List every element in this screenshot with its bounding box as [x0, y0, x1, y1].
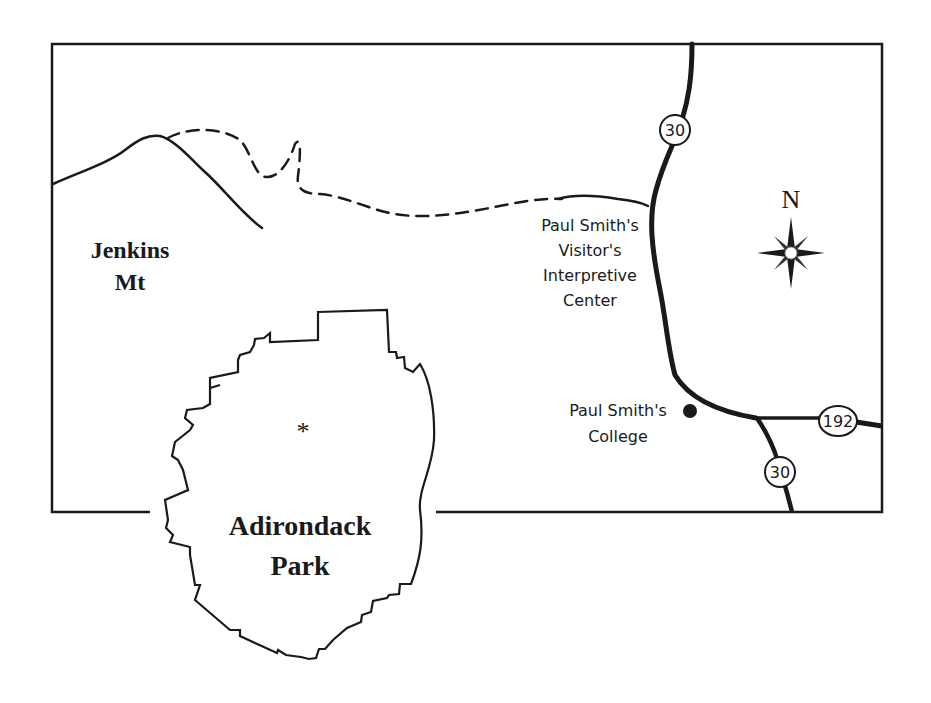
svg-text:N: N: [782, 185, 801, 214]
visitor-center-label: Paul Smith's Visitor's Interpretive Cent…: [541, 216, 639, 310]
svg-text:Interpretive: Interpretive: [543, 266, 637, 285]
jenkins-trail-solid: [53, 136, 262, 228]
svg-text:Park: Park: [270, 550, 330, 581]
route-30-road: [652, 44, 756, 418]
trail-to-route30: [558, 196, 648, 206]
svg-text:30: 30: [665, 121, 685, 140]
trail-dashed: [168, 130, 562, 216]
svg-text:Adirondack: Adirondack: [229, 510, 372, 541]
svg-text:Visitor's: Visitor's: [558, 241, 621, 260]
svg-text:Center: Center: [563, 291, 617, 310]
route-192-road-east: [856, 422, 882, 426]
svg-text:30: 30: [770, 463, 790, 482]
compass-rose-icon: N: [757, 185, 825, 289]
route-30-south-shield: 30: [765, 457, 795, 487]
svg-text:College: College: [588, 427, 648, 446]
map-canvas: 30 192 30 Jenkins Mt Paul Smith's Visito…: [0, 0, 931, 703]
svg-text:Jenkins: Jenkins: [91, 237, 170, 263]
svg-text:Paul Smith's: Paul Smith's: [569, 401, 667, 420]
svg-text:Mt: Mt: [115, 269, 146, 295]
jenkins-mt-label: Jenkins Mt: [91, 237, 170, 295]
route-192-shield: 192: [819, 406, 857, 436]
svg-text:192: 192: [823, 412, 854, 431]
route-30-north-shield: 30: [660, 115, 690, 145]
filled-circle-icon: [683, 404, 697, 418]
college-label: Paul Smith's College: [569, 401, 667, 446]
adirondack-park-outline: [165, 310, 434, 659]
asterisk-icon: *: [297, 417, 310, 446]
svg-text:Paul Smith's: Paul Smith's: [541, 216, 639, 235]
